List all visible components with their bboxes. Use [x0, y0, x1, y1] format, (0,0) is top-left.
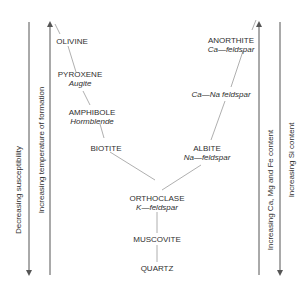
mineral-pyroxene: PYROXENE Augite	[58, 70, 102, 88]
discontinuous-connectors	[55, 24, 155, 180]
axis-label-susceptibility: Decreasing susceptibility	[14, 146, 23, 234]
mineral-variety: Hormblende	[69, 117, 116, 126]
mineral-name: OLIVINE	[56, 37, 88, 46]
mineral-name: PYROXENE	[58, 70, 102, 79]
axis-label-ca-mg-fe: Increasing Ca, Mg and Fe content	[266, 130, 275, 251]
mineral-muscovite: MUSCOVITE	[133, 235, 181, 244]
mineral-amphibole: AMPHIBOLE Hormblende	[69, 108, 116, 126]
mineral-anorthite: ANORTHITE Ca—feldspar	[208, 36, 255, 54]
mineral-variety: Ca—Na feldspar	[191, 90, 250, 99]
mineral-olivine: OLIVINE	[56, 37, 88, 46]
mineral-name: MUSCOVITE	[133, 235, 181, 244]
axis-label-si: Increasing Si content	[287, 123, 296, 198]
diagram-lines	[0, 0, 308, 298]
axis-label-temperature: Increasing temperature of formation	[37, 87, 46, 214]
mineral-ca-na-feldspar: Ca—Na feldspar	[191, 90, 250, 99]
mineral-variety: Augite	[58, 79, 102, 88]
mineral-orthoclase: ORTHOCLASE K—feldspar	[130, 194, 185, 212]
bowen-reaction-diagram: Decreasing susceptibility Increasing tem…	[0, 0, 308, 298]
mineral-biotite: BIOTITE	[90, 144, 121, 153]
mineral-variety: Na—feldspar	[184, 153, 231, 162]
mineral-name: ORTHOCLASE	[130, 194, 185, 203]
mineral-name: BIOTITE	[90, 144, 121, 153]
mineral-name: QUARTZ	[141, 264, 174, 273]
mineral-name: ANORTHITE	[208, 36, 254, 45]
mineral-albite: ALBITE Na—feldspar	[184, 144, 231, 162]
mineral-variety: K—feldspar	[130, 203, 185, 212]
mineral-name: ALBITE	[193, 144, 221, 153]
mineral-variety: Ca—feldspar	[208, 45, 255, 54]
mineral-quartz: QUARTZ	[141, 264, 174, 273]
mineral-name: AMPHIBOLE	[69, 108, 116, 117]
